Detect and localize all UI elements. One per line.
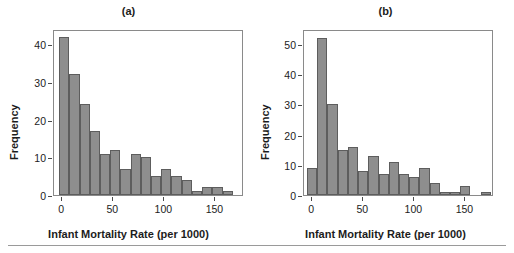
panel-b: (b) Frequency 05010015001020304050 Infan… — [257, 0, 514, 253]
histogram-bar — [440, 192, 450, 195]
x-tick-mark — [362, 197, 363, 201]
y-tick-mark — [48, 83, 52, 84]
y-tick-mark — [48, 158, 52, 159]
y-tick-label: 10 — [23, 152, 46, 164]
y-tick-mark — [298, 45, 302, 46]
histogram-bar — [338, 150, 348, 195]
y-tick-label: 40 — [273, 69, 296, 81]
histogram-bar — [450, 192, 460, 195]
x-tick-label: 100 — [405, 203, 423, 215]
y-tick-label: 50 — [273, 39, 296, 51]
x-tick-label: 0 — [58, 203, 64, 215]
histogram-bar — [307, 168, 317, 195]
histogram-bar — [90, 131, 100, 195]
panel-b-title: (b) — [257, 5, 514, 17]
y-tick-label: 20 — [23, 115, 46, 127]
histogram-bar — [161, 169, 171, 195]
panel-b-plot-area — [303, 30, 493, 196]
histogram-bar — [120, 169, 130, 195]
histogram-bar — [348, 147, 358, 195]
histogram-bar — [171, 176, 181, 195]
histogram-bar — [358, 171, 368, 195]
histogram-bar — [141, 157, 151, 195]
histogram-bar — [182, 180, 192, 195]
histogram-bar — [409, 177, 419, 195]
histogram-bar — [69, 74, 79, 195]
histogram-bar — [202, 187, 212, 195]
panel-a-y-axis-title: Frequency — [8, 104, 20, 160]
panel-a-x-axis-title: Infant Mortality Rate (per 1000) — [0, 228, 257, 240]
histogram-bar — [100, 154, 110, 196]
x-tick-mark — [311, 197, 312, 201]
y-tick-label: 20 — [273, 130, 296, 142]
footer-rule — [8, 245, 506, 246]
histogram-bar — [192, 191, 202, 195]
x-tick-label: 150 — [456, 203, 474, 215]
x-tick-label: 150 — [206, 203, 224, 215]
y-tick-label: 30 — [23, 77, 46, 89]
histogram-bar — [223, 191, 233, 195]
y-tick-mark — [48, 196, 52, 197]
panel-a-bars — [54, 31, 242, 195]
histogram-bar — [59, 37, 69, 195]
x-tick-mark — [61, 197, 62, 201]
x-tick-mark — [112, 197, 113, 201]
x-tick-mark — [214, 197, 215, 201]
y-tick-label: 30 — [273, 99, 296, 111]
y-tick-label: 0 — [23, 190, 46, 202]
histogram-bar — [368, 156, 378, 195]
y-tick-mark — [298, 196, 302, 197]
histogram-bar — [131, 154, 141, 196]
y-tick-label: 0 — [273, 190, 296, 202]
x-tick-mark — [413, 197, 414, 201]
panel-a-plot-area — [53, 30, 243, 196]
y-tick-mark — [298, 75, 302, 76]
histogram-bar — [389, 162, 399, 195]
y-tick-mark — [48, 121, 52, 122]
panel-b-x-axis-title: Infant Mortality Rate (per 1000) — [257, 228, 514, 240]
x-tick-mark — [464, 197, 465, 201]
x-tick-mark — [163, 197, 164, 201]
x-tick-label: 100 — [155, 203, 173, 215]
x-tick-label: 50 — [356, 203, 368, 215]
y-tick-mark — [298, 136, 302, 137]
panel-b-y-axis-title: Frequency — [259, 104, 271, 160]
y-tick-label: 40 — [23, 39, 46, 51]
panel-a-title: (a) — [0, 5, 257, 17]
panel-b-bars — [304, 31, 492, 195]
histogram-bar — [317, 38, 327, 195]
panel-a: (a) Frequency 050100150010203040 Infant … — [0, 0, 257, 253]
histogram-bar — [419, 168, 429, 195]
histogram-bar — [151, 176, 161, 195]
x-tick-label: 0 — [308, 203, 314, 215]
y-tick-mark — [298, 166, 302, 167]
y-tick-mark — [298, 105, 302, 106]
histogram-bar — [379, 174, 389, 195]
histogram-bar — [80, 104, 90, 195]
histogram-bar — [399, 174, 409, 195]
x-tick-label: 50 — [106, 203, 118, 215]
histogram-bar — [110, 150, 120, 195]
histogram-bar — [327, 104, 337, 195]
histogram-bar — [212, 187, 222, 195]
y-tick-label: 10 — [273, 160, 296, 172]
histogram-bar — [430, 183, 440, 195]
histogram-figure: (a) Frequency 050100150010203040 Infant … — [0, 0, 514, 253]
histogram-bar — [481, 192, 491, 195]
y-tick-mark — [48, 45, 52, 46]
histogram-bar — [460, 186, 470, 195]
